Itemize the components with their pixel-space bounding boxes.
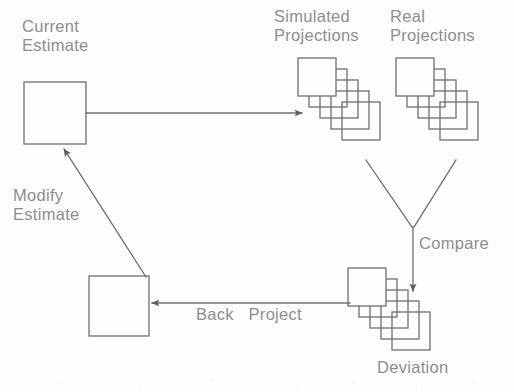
label-real-projections: Real Projections xyxy=(390,7,475,45)
edge-simulated-to-compare xyxy=(366,160,412,227)
current-estimate-box xyxy=(24,82,86,144)
label-back-project: Back Project xyxy=(196,305,302,324)
label-current-estimate: Current Estimate xyxy=(22,17,89,55)
label-simulated-projections: Simulated Projections xyxy=(274,7,359,45)
simulated-projections-stack xyxy=(298,58,380,140)
edge-real-to-compare xyxy=(414,160,456,227)
deviation-stack xyxy=(348,268,430,350)
label-modify-estimate: Modify Estimate xyxy=(13,186,80,224)
real-projections-stack xyxy=(396,58,478,140)
label-compare: Compare xyxy=(419,234,489,253)
diagram-canvas: Current Estimate Simulated Projections R… xyxy=(0,0,514,392)
back-project-box xyxy=(89,276,149,336)
label-deviation: Deviation xyxy=(377,358,449,377)
